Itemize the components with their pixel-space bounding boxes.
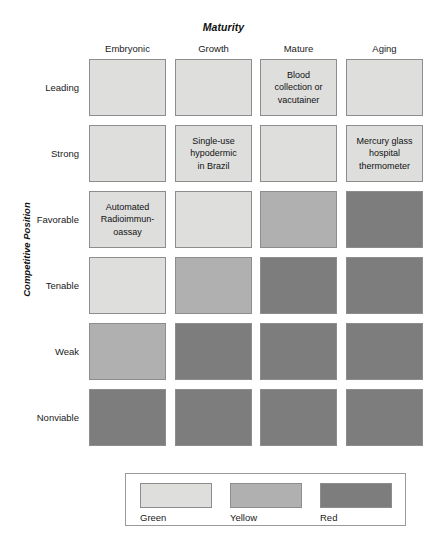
- matrix-cell: [346, 257, 423, 314]
- matrix-chart: Maturity Competitive Position EmbryonicG…: [0, 0, 447, 559]
- matrix-cell: Single-use hypodermic in Brazil: [175, 125, 252, 182]
- row-label-favorable: Favorable: [0, 213, 84, 227]
- cell-label: Blood collection or vacutainer: [272, 69, 324, 106]
- column-header-embryonic: Embryonic: [89, 42, 166, 56]
- cell-label: Single-use hypodermic in Brazil: [188, 135, 239, 172]
- matrix-cell: [89, 125, 166, 182]
- row-label-nonviable: Nonviable: [0, 411, 84, 425]
- y-axis-title: Competitive Position: [21, 180, 32, 320]
- row-label-strong: Strong: [0, 147, 84, 161]
- column-header-aging: Aging: [346, 42, 423, 56]
- matrix-cell: [346, 389, 423, 446]
- legend-label-green: Green: [140, 511, 212, 524]
- matrix-cell: [175, 323, 252, 380]
- matrix-cell: [260, 323, 337, 380]
- legend-swatch-green: [140, 483, 212, 508]
- matrix-cell: [260, 191, 337, 248]
- legend-swatch-red: [320, 483, 392, 508]
- matrix-cell: [175, 389, 252, 446]
- matrix-cell: [260, 257, 337, 314]
- matrix-cell: Blood collection or vacutainer: [260, 59, 337, 116]
- matrix-cell: [89, 389, 166, 446]
- matrix-cell: Mercury glass hospital thermometer: [346, 125, 423, 182]
- row-label-weak: Weak: [0, 345, 84, 359]
- row-label-tenable: Tenable: [0, 279, 84, 293]
- legend-label-red: Red: [320, 511, 392, 524]
- legend-label-yellow: Yellow: [230, 511, 302, 524]
- matrix-cell: [346, 59, 423, 116]
- matrix-cell: [260, 125, 337, 182]
- matrix-cell: [89, 323, 166, 380]
- matrix-cell: Automated Radioimmun- oassay: [89, 191, 166, 248]
- x-axis-title: Maturity: [0, 21, 447, 33]
- cell-label: Automated Radioimmun- oassay: [99, 201, 157, 238]
- matrix-cell: [89, 257, 166, 314]
- row-label-leading: Leading: [0, 81, 84, 95]
- matrix-cell: [89, 59, 166, 116]
- matrix-cell: [175, 191, 252, 248]
- column-header-mature: Mature: [260, 42, 337, 56]
- matrix-cell: [346, 191, 423, 248]
- column-header-growth: Growth: [175, 42, 252, 56]
- matrix-cell: [175, 257, 252, 314]
- matrix-cell: [175, 59, 252, 116]
- matrix-cell: [346, 323, 423, 380]
- matrix-cell: [260, 389, 337, 446]
- cell-label: Mercury glass hospital thermometer: [354, 135, 414, 172]
- legend-swatch-yellow: [230, 483, 302, 508]
